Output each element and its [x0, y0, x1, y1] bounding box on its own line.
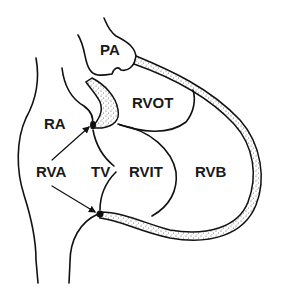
ra-inner-contour: [62, 68, 93, 125]
label-rvot: RVOT: [132, 95, 173, 110]
label-rvb: RVB: [195, 164, 226, 179]
rva-upper-marker: [90, 121, 96, 129]
label-pa: PA: [100, 42, 120, 57]
label-tv: TV: [91, 164, 110, 179]
diagram-canvas: [0, 0, 281, 294]
infundibular-wall: [86, 78, 118, 128]
label-ra: RA: [44, 116, 66, 131]
heart-diagram: PA RVOT RA RVA TV RVIT RVB: [0, 0, 281, 294]
tv-upper-leaflet: [93, 130, 114, 166]
rva-arrow-lower: [52, 186, 95, 212]
label-rva: RVA: [36, 164, 66, 179]
ivc-contour: [69, 214, 98, 283]
rv-free-wall: [100, 56, 261, 240]
rva-lower-marker: [97, 211, 104, 218]
label-rvit: RVIT: [129, 164, 163, 179]
